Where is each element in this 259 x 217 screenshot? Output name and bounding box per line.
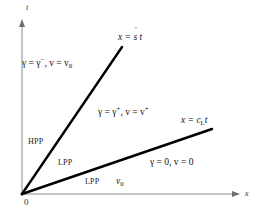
shock-ray-label-sdot: s [133, 33, 137, 43]
cl-ray-label-prefix: x = c [181, 115, 201, 125]
v-zero-subscript: 0 [120, 180, 123, 187]
t-axis [19, 19, 25, 196]
x-axis-label: x [245, 190, 249, 198]
middle-state-v: , v = v [120, 107, 144, 117]
cl-ray-label-suffix: t [205, 115, 208, 125]
x-axis [20, 191, 240, 197]
cl-ray-label: x = cLt [181, 116, 207, 126]
t-axis-label: t [26, 4, 28, 12]
shock-ray-line [22, 47, 122, 194]
x-axis-arrowhead [232, 191, 240, 197]
upper-state-v: , v = v [44, 58, 68, 68]
shock-ray-label: x = s t [118, 33, 142, 43]
middle-state-gamma: γ = γ [98, 107, 117, 117]
t-axis-arrowhead [19, 19, 25, 27]
middle-state-v-superscript: + [145, 105, 149, 112]
shock-ray-label-x: x = [118, 32, 133, 42]
lpp-region-lower-label: LPP [85, 178, 99, 186]
lower-state-annotation: γ = 0, v = 0 [150, 158, 193, 168]
upper-state-v-subscript: 0 [69, 62, 72, 69]
upper-state-gamma: γ = γ [22, 58, 41, 68]
upper-state-annotation: γ = γ−, v = v0 [22, 59, 72, 69]
xt-plane-diagram: t x 0 x = s t x = cLt γ = γ−, v = v0 γ =… [0, 0, 259, 217]
origin-label: 0 [24, 198, 29, 207]
middle-state-annotation: γ = γ+, v = v+ [98, 108, 149, 118]
hpp-region-label: HPP [28, 138, 43, 146]
shock-ray-label-t: t [137, 32, 142, 42]
lpp-region-upper-label: LPP [58, 159, 72, 167]
v-zero-annotation: v0 [116, 177, 124, 187]
